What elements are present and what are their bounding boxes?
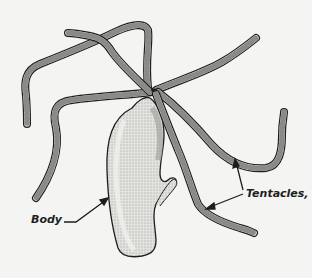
tentacles-arrowhead-lower xyxy=(206,203,215,209)
body-leader-line xyxy=(64,200,106,222)
tentacles-label: Tentacles, xyxy=(246,187,309,200)
tentacle-upper-right xyxy=(156,38,256,90)
tentacle-top xyxy=(68,33,150,92)
hydra-illustration xyxy=(0,0,312,278)
hydra-diagram: Body Tentacles, xyxy=(0,0,312,278)
body-label: Body xyxy=(31,213,62,226)
mouth xyxy=(151,88,157,91)
